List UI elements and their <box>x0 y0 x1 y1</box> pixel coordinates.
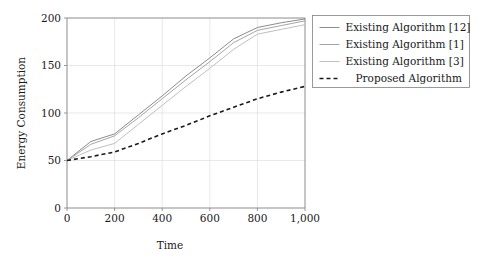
y-axis-title: Energy Consumption <box>15 57 27 169</box>
legend: Existing Algorithm [12]Existing Algorith… <box>313 16 471 88</box>
legend-label-2: Existing Algorithm [3] <box>346 55 464 67</box>
line-chart-svg: 050100150200 02004006008001,000 Time Ene… <box>0 0 481 266</box>
legend-label-1: Existing Algorithm [1] <box>346 38 464 50</box>
x-tick-label: 400 <box>152 212 172 224</box>
chart-figure: 050100150200 02004006008001,000 Time Ene… <box>0 0 481 266</box>
x-tick-label: 1,000 <box>290 212 320 224</box>
x-tick-label: 800 <box>247 212 267 224</box>
y-tick-label: 200 <box>41 12 61 24</box>
y-tick-label: 0 <box>54 202 61 214</box>
legend-label-0: Existing Algorithm [12] <box>346 21 471 33</box>
y-tick-label: 150 <box>41 59 61 71</box>
x-tick-label: 0 <box>64 212 71 224</box>
legend-label-3: Proposed Algorithm <box>356 72 462 84</box>
x-axis-title: Time <box>157 239 184 251</box>
y-tick-label: 50 <box>48 154 61 166</box>
x-tick-label: 200 <box>105 212 125 224</box>
y-tick-label: 100 <box>41 107 61 119</box>
x-tick-label: 600 <box>200 212 220 224</box>
